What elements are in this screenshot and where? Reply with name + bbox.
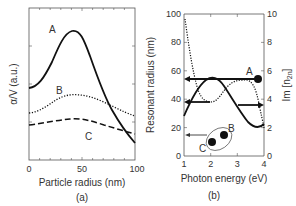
panel-b-xticklabels: 1 2 3 4 xyxy=(181,159,266,169)
panel-b: A B C 0 20 40 60 80 100 0 2 4 6 8 10 1 2… xyxy=(145,9,293,201)
panel-a-xlabel: Particle radius (nm) xyxy=(39,177,126,188)
panel-a-curve-B xyxy=(29,95,135,116)
arrowhead-36 xyxy=(258,102,264,108)
panel-b-xlabel: Photon energy (eV) xyxy=(181,173,268,184)
y2tick-8: 8 xyxy=(267,37,272,47)
ytick-100: 100 xyxy=(166,9,181,19)
panel-a-label-C: C xyxy=(85,131,92,142)
y2tick-6: 6 xyxy=(267,66,272,76)
panel-a-xtick-0: 0 xyxy=(26,164,31,174)
panel-a-axes-box xyxy=(29,8,135,160)
panel-b-ylabel: Resonant radius (nm) xyxy=(145,37,156,133)
panel-b-point-C xyxy=(208,138,216,146)
panel-a-top-ticks xyxy=(40,8,125,11)
panel-a-xtick-100: 100 xyxy=(129,164,144,174)
xtick-4: 4 xyxy=(261,159,266,169)
ytick-0: 0 xyxy=(176,151,181,161)
panel-a-label-B: B xyxy=(56,85,63,96)
ytick-80: 80 xyxy=(171,37,181,47)
panel-b-right-ticklabels: 0 2 4 6 8 10 xyxy=(267,9,277,161)
panel-b-caption: (b) xyxy=(208,190,220,201)
ytick-20: 20 xyxy=(171,123,181,133)
figure: A B C 0 50 100 Particle radius (nm) α/V … xyxy=(0,0,296,206)
panel-a-y-ticks xyxy=(29,46,135,122)
y2tick-2: 2 xyxy=(267,123,272,133)
panel-b-left-ticklabels: 0 20 40 60 80 100 xyxy=(166,9,181,161)
panel-b-label-C: C xyxy=(199,143,206,154)
y2tick-10: 10 xyxy=(267,9,277,19)
panel-a-caption: (a) xyxy=(76,192,88,203)
y2tick-4: 4 xyxy=(267,94,272,104)
ytick-60: 60 xyxy=(171,66,181,76)
panel-a-label-A: A xyxy=(49,24,56,35)
panel-b-point-B xyxy=(220,131,228,139)
ytick-40: 40 xyxy=(171,94,181,104)
xtick-3: 3 xyxy=(235,159,240,169)
arrowhead-38 xyxy=(184,99,190,105)
panel-b-point-A xyxy=(254,75,262,83)
panel-b-label-A: A xyxy=(246,66,253,77)
panel-a-curve-A xyxy=(29,31,135,143)
panel-a-ylabel: α/V (a.u.) xyxy=(8,63,19,104)
xtick-1: 1 xyxy=(181,159,186,169)
arrowhead-BC xyxy=(185,133,190,137)
xtick-2: 2 xyxy=(208,159,213,169)
panel-a-bottom-ticks xyxy=(40,157,125,160)
arrowhead-A xyxy=(184,76,190,82)
panel-b-label-B: B xyxy=(228,123,235,134)
panel-a: A B C 0 50 100 Particle radius (nm) α/V … xyxy=(8,8,145,203)
panel-b-y2label: Im [n2n] xyxy=(281,68,293,101)
y2tick-0: 0 xyxy=(267,151,272,161)
panel-a-xtick-50: 50 xyxy=(77,164,87,174)
